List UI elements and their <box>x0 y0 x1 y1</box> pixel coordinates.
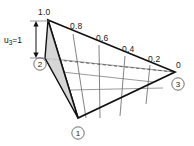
figure-container: u3=1 1.0 0.8 0.6 0.4 0.2 0 1 2 3 <box>0 0 194 146</box>
node-marker-3: 3 <box>172 78 184 90</box>
dim-arrow-down-icon <box>33 53 38 59</box>
contour-label-0.2: 0.2 <box>148 54 160 64</box>
dimension-value: =1 <box>12 35 22 45</box>
node-marker-1: 1 <box>72 127 84 139</box>
contour-label-0: 0 <box>176 60 181 70</box>
contour-label-1.0: 1.0 <box>38 7 50 17</box>
element-outline <box>48 20 175 118</box>
contour-label-0.6: 0.6 <box>96 33 108 43</box>
dimension-label: u3=1 <box>4 35 22 46</box>
node-1-label: 1 <box>76 129 81 138</box>
base-trace-a <box>62 72 153 82</box>
node-marker-2: 2 <box>34 58 46 70</box>
contour-label-0.8: 0.8 <box>70 21 82 31</box>
node-2-label: 2 <box>38 60 43 69</box>
base-trace-b <box>70 88 163 90</box>
contour-label-0.4: 0.4 <box>122 44 134 54</box>
shape-function-diagram: u3=1 1.0 0.8 0.6 0.4 0.2 0 1 2 3 <box>0 0 194 146</box>
node-3-label: 3 <box>176 80 181 89</box>
dimension-annotation: u3=1 <box>4 21 49 58</box>
contour-line-0.4 <box>120 56 125 116</box>
dim-arrow-up-icon <box>33 21 38 27</box>
